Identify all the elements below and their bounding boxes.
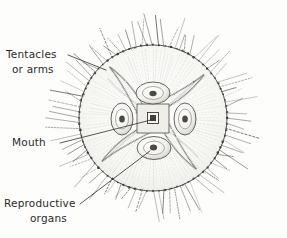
rim-bead — [102, 171, 104, 173]
rim-bead — [81, 135, 83, 137]
rim-bead — [187, 181, 189, 183]
rim-bead — [219, 88, 221, 90]
rim-bead — [87, 82, 89, 84]
rim-bead — [146, 190, 148, 192]
rim-bead — [197, 175, 199, 177]
organ-nucleus — [182, 115, 188, 122]
rim-bead — [78, 117, 80, 119]
rim-bead — [117, 182, 119, 184]
rim-bead — [207, 166, 209, 168]
rim-bead — [158, 44, 160, 46]
rim-bead — [107, 175, 109, 177]
reproductive-organ — [136, 82, 170, 104]
rim-bead — [134, 47, 136, 49]
rim-bead — [226, 111, 228, 113]
rim-bead — [140, 189, 142, 191]
label-mouth: Mouth — [12, 136, 46, 148]
rim-bead — [122, 184, 124, 186]
rim-bead — [170, 188, 172, 190]
rim-bead — [122, 50, 125, 53]
reproductive-organ — [111, 103, 133, 135]
rim-bead — [87, 152, 89, 154]
reproductive-organ — [174, 103, 196, 135]
rim-bead — [187, 52, 189, 54]
rim-bead — [128, 186, 131, 189]
rim-bead — [202, 63, 204, 65]
rim-bead — [80, 99, 82, 101]
rim-bead — [84, 146, 86, 148]
reproductive-organ — [137, 137, 171, 160]
rim-bead — [224, 99, 226, 101]
rim-bead — [225, 105, 227, 107]
rim-bead — [223, 94, 225, 96]
label-tentacles-line1: Tentacles — [5, 48, 57, 60]
rim-bead — [82, 93, 85, 96]
label-reproductive-line1: Reproductive — [4, 197, 76, 209]
rim-bead — [111, 56, 113, 58]
rim-bead — [192, 56, 195, 59]
rim-bead — [202, 171, 204, 173]
rim-bead — [226, 123, 228, 125]
rim-bead — [221, 141, 224, 144]
rim-bead — [152, 44, 154, 46]
rim-bead — [217, 151, 220, 154]
rim-bead — [140, 45, 142, 47]
rim-bead — [214, 157, 216, 159]
rim-bead — [134, 187, 136, 189]
organ-nucleus — [149, 91, 156, 97]
rim-bead — [80, 105, 82, 107]
rim-bead — [176, 48, 178, 50]
rim-bead — [217, 82, 219, 84]
rim-bead — [225, 129, 227, 131]
rim-bead — [78, 111, 80, 113]
rim-bead — [210, 73, 212, 75]
rim-bead — [226, 117, 228, 119]
rim-bead — [176, 185, 178, 187]
rim-bead — [116, 53, 119, 56]
label-tentacles-line2: or arms — [12, 63, 54, 75]
rim-bead — [94, 72, 96, 74]
rim-bead — [224, 135, 226, 137]
rim-bead — [82, 141, 84, 143]
rim-bead — [181, 49, 183, 51]
rim-bead — [85, 88, 87, 90]
rim-bead — [78, 123, 80, 125]
rim-bead — [158, 190, 160, 192]
rim-bead — [152, 190, 154, 192]
organ-nucleus — [119, 115, 125, 122]
rim-bead — [214, 77, 216, 79]
rim-bead — [164, 45, 166, 47]
rim-bead — [102, 64, 104, 66]
rim-bead — [210, 162, 212, 164]
rim-bead — [170, 46, 172, 48]
rim-bead — [182, 184, 184, 186]
rim-bead — [97, 166, 99, 168]
rim-bead — [94, 162, 96, 164]
rim-bead — [164, 189, 166, 191]
rim-bead — [146, 43, 148, 45]
rim-bead — [97, 68, 99, 70]
rim-bead — [219, 146, 221, 148]
rim-bead — [128, 48, 130, 50]
organ-nucleus — [150, 145, 157, 151]
jellyfish-anatomy-figure: Tentacles or arms Mouth Reproductive org… — [0, 0, 287, 238]
rim-bead — [192, 178, 194, 180]
rim-bead — [206, 68, 208, 70]
rim-bead — [79, 129, 82, 132]
rim-bead — [90, 77, 92, 79]
rim-bead — [106, 59, 108, 61]
mouth-opening — [148, 113, 159, 124]
rim-bead — [90, 157, 92, 159]
rim-bead — [198, 60, 200, 62]
label-reproductive-line2: organs — [30, 212, 67, 224]
